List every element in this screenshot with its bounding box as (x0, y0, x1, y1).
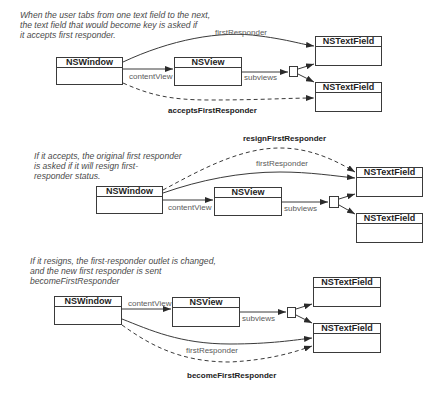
subview-branch-arrow (339, 194, 355, 199)
subview-branch-arrow (298, 64, 314, 69)
content-view-label: contentView (168, 203, 211, 212)
box-title: NSTextField (357, 168, 422, 178)
box-title: NSView (175, 58, 241, 68)
caption-line: If it accepts, the original first respon… (34, 151, 182, 161)
accepts-first-responder-label: acceptsFirstResponder (168, 106, 257, 115)
first-responder-label: firstResponder (256, 159, 308, 168)
nstextfield-box: NSTextField (313, 323, 381, 353)
become-first-responder-label: becomeFirstResponder (187, 371, 276, 380)
box-title: NSTextField (314, 324, 380, 334)
box-title: NSWindow (57, 58, 122, 68)
panel-2-caption: If it accepts, the original first respon… (34, 151, 182, 181)
caption-line: it accepts first responder. (20, 30, 210, 40)
subviews-label: subviews (244, 73, 277, 82)
nstextfield-box: NSTextField (356, 167, 423, 197)
box-title: NSTextField (316, 83, 381, 93)
box-title: NSTextField (316, 37, 381, 47)
box-title: NSView (215, 188, 281, 198)
nsview-box: NSView (172, 297, 240, 327)
content-view-label: contentView (129, 72, 172, 81)
nstextfield-box: NSTextField (315, 36, 382, 66)
nstextfield-box: NSTextField (313, 277, 381, 307)
caption-line: is asked if it will resign first- (34, 161, 182, 171)
resign-first-responder-label: resignFirstResponder (243, 134, 326, 143)
box-title: NSView (173, 298, 239, 308)
subviews-label: subviews (284, 204, 317, 213)
panel-1-caption: When the user tabs from one text field t… (20, 10, 210, 40)
subviews-array-node (329, 196, 339, 208)
caption-line: When the user tabs from one text field t… (20, 10, 210, 20)
subview-branch-arrow (296, 315, 312, 323)
box-title: NSTextField (357, 214, 422, 224)
nswindow-box: NSWindow (96, 186, 163, 214)
box-title: NSTextField (314, 278, 380, 288)
nswindow-box: NSWindow (54, 296, 122, 325)
content-view-label: contentView (128, 299, 171, 308)
caption-line: If it resigns, the first-responder outle… (30, 256, 216, 266)
caption-line: the text field that would become key is … (20, 20, 210, 30)
subview-branch-arrow (296, 304, 312, 309)
nsview-box: NSView (174, 57, 242, 86)
subview-branch-arrow (339, 205, 355, 214)
nswindow-box: NSWindow (56, 57, 123, 85)
nsview-box: NSView (214, 187, 282, 216)
caption-line: and the new first responder is sent (30, 266, 216, 276)
caption-line: becomeFirstResponder (30, 276, 216, 286)
nstextfield-box: NSTextField (315, 82, 382, 112)
first-responder-label: firstResponder (186, 346, 238, 355)
subviews-label: subviews (242, 314, 275, 323)
subviews-array-node (289, 66, 298, 77)
first-responder-label: firstResponder (215, 28, 267, 37)
box-title: NSWindow (97, 187, 162, 197)
nstextfield-box: NSTextField (356, 213, 423, 243)
box-title: NSWindow (55, 297, 121, 307)
panel-3-caption: If it resigns, the first-responder outle… (30, 256, 216, 286)
subview-branch-arrow (298, 74, 314, 82)
subviews-array-node (287, 307, 296, 318)
caption-line: responder status. (34, 171, 182, 181)
